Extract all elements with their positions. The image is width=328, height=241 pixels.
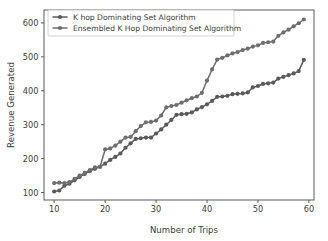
y-axis-title: Revenue Generated: [6, 62, 16, 148]
data-point: [210, 67, 214, 71]
axes: 100200300400500600102030405060: [23, 10, 314, 214]
data-point: [195, 107, 199, 111]
data-point: [241, 48, 245, 52]
data-point: [286, 28, 290, 32]
chart-legend[interactable]: K hop Dominating Set AlgorithmEnsembled …: [48, 10, 241, 36]
data-point: [154, 131, 158, 135]
x-tick-label-40: 40: [202, 204, 212, 214]
data-point: [108, 158, 112, 162]
series-1: [52, 17, 306, 185]
data-point: [215, 57, 219, 61]
data-point: [292, 24, 296, 28]
data-point: [276, 76, 280, 80]
data-point: [286, 73, 290, 77]
x-tick-label-20: 20: [100, 204, 110, 214]
data-point: [118, 151, 122, 155]
data-point: [292, 71, 296, 75]
data-point: [241, 91, 245, 95]
data-point: [149, 120, 153, 124]
data-point: [98, 165, 102, 169]
data-point: [185, 98, 189, 102]
data-point: [169, 104, 173, 108]
data-point: [154, 119, 158, 123]
data-point: [246, 90, 250, 94]
data-point: [83, 171, 87, 175]
y-tick-label-100: 100: [23, 188, 39, 198]
data-point: [235, 92, 239, 96]
y-tick-label-400: 400: [23, 86, 39, 96]
data-point: [169, 118, 173, 122]
data-point: [113, 155, 117, 159]
data-point: [62, 181, 66, 185]
data-point: [103, 147, 107, 151]
data-point: [205, 102, 209, 106]
data-point: [103, 162, 107, 166]
data-point: [266, 81, 270, 85]
legend-label-0: K hop Dominating Set Algorithm: [73, 13, 196, 22]
data-point: [195, 94, 199, 98]
x-tick-label-50: 50: [253, 204, 263, 214]
data-point: [215, 95, 219, 99]
data-point: [281, 75, 285, 79]
data-point: [164, 105, 168, 109]
data-point: [164, 123, 168, 127]
data-point: [108, 146, 112, 150]
data-point: [78, 173, 82, 177]
data-point: [302, 58, 306, 62]
data-point: [251, 45, 255, 49]
data-point: [139, 136, 143, 140]
data-point: [134, 137, 138, 141]
data-point: [235, 50, 239, 54]
chart-figure: 100200300400500600102030405060 K hop Dom…: [0, 0, 328, 241]
data-point: [261, 41, 265, 45]
y-tick-label-200: 200: [23, 154, 39, 164]
data-point: [123, 146, 127, 150]
data-point: [225, 94, 229, 98]
data-point: [266, 40, 270, 44]
data-point: [281, 30, 285, 34]
data-point: [118, 140, 122, 144]
data-point: [246, 47, 250, 51]
data-point: [225, 53, 229, 57]
data-point: [57, 181, 61, 185]
data-point: [174, 113, 178, 117]
data-point: [179, 112, 183, 116]
data-point: [190, 110, 194, 114]
legend-item-0[interactable]: K hop Dominating Set Algorithm: [53, 13, 196, 22]
series-0: [52, 58, 306, 194]
line-chart: 100200300400500600102030405060 K hop Dom…: [0, 0, 328, 241]
data-point: [134, 129, 138, 133]
data-point: [88, 168, 92, 172]
data-point: [230, 92, 234, 96]
data-point: [251, 85, 255, 89]
data-point: [205, 78, 209, 82]
legend-swatch-marker-0: [58, 15, 62, 19]
x-tick-label-30: 30: [151, 204, 161, 214]
x-axis-title: Number of Trips: [150, 225, 219, 235]
y-tick-label-300: 300: [23, 120, 39, 130]
data-point: [159, 113, 163, 117]
data-point: [185, 112, 189, 116]
data-point: [256, 84, 260, 88]
x-tick-label-10: 10: [49, 204, 59, 214]
data-point: [297, 21, 301, 25]
data-point: [271, 39, 275, 43]
data-point: [144, 135, 148, 139]
data-point: [200, 105, 204, 109]
legend-item-1[interactable]: Ensembled K Hop Dominating Set Algorithm: [53, 24, 241, 33]
data-point: [174, 103, 178, 107]
data-point: [149, 135, 153, 139]
data-point: [67, 180, 71, 184]
data-point: [144, 120, 148, 124]
data-point: [57, 188, 61, 192]
data-point: [271, 81, 275, 85]
data-point: [52, 181, 56, 185]
data-point: [220, 56, 224, 60]
data-point: [159, 127, 163, 131]
data-series: [52, 17, 306, 193]
data-point: [261, 82, 265, 86]
y-tick-label-500: 500: [23, 52, 39, 62]
data-point: [256, 43, 260, 47]
data-point: [190, 96, 194, 100]
data-point: [113, 144, 117, 148]
